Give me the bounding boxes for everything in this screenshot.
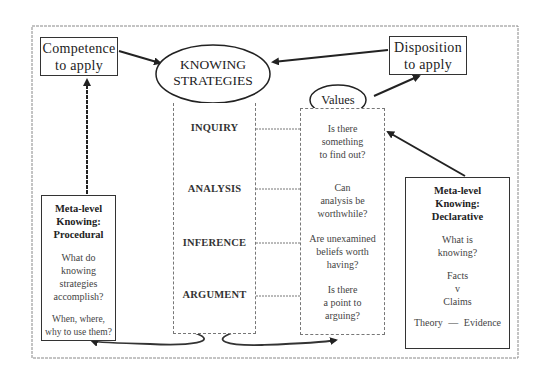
arrow-disposition-to-strategies xyxy=(273,50,388,62)
values-questions-box: Is there something to find out? Can anal… xyxy=(300,108,385,335)
procedural-title-line1: Meta-level xyxy=(42,202,115,215)
question-inquiry-line2: something xyxy=(301,135,384,148)
question-analysis-line3: worthwhile? xyxy=(301,207,384,220)
question-argument-line1: Is there xyxy=(301,283,384,296)
arrow-values-to-disposition xyxy=(374,76,419,96)
facts-label: Facts xyxy=(406,269,509,282)
procedural-question1: What do knowing strategies accomplish? xyxy=(42,251,115,303)
procedural-title-line2: Knowing: xyxy=(42,215,115,228)
question-inquiry-line3: to find out? xyxy=(301,148,384,161)
question-analysis: Can analysis be worthwhile? xyxy=(301,181,384,220)
question-inference-line2: beliefs worth xyxy=(301,245,384,258)
arrow-competence-to-strategies xyxy=(119,51,160,63)
theory-evidence-row: Theory — Evidence xyxy=(406,316,509,329)
disposition-line1: Disposition xyxy=(390,39,466,56)
claims-label: Claims xyxy=(406,295,509,308)
question-inquiry-line1: Is there xyxy=(301,122,384,135)
declarative-title-line2: Knowing: xyxy=(406,197,509,210)
declarative-title: Meta-level Knowing: Declarative xyxy=(406,184,509,223)
question-argument-line3: arguing? xyxy=(301,309,384,322)
competence-line2: to apply xyxy=(41,57,117,74)
declarative-question: What is knowing? xyxy=(406,233,509,259)
strategies-box: INQUIRY ANALYSIS INFERENCE ARGUMENT xyxy=(173,103,256,334)
strategy-inquiry: INQUIRY xyxy=(174,122,255,133)
procedural-q2-line1: When, where, xyxy=(42,313,115,326)
knowing-strategies-label: KNOWING STRATEGIES xyxy=(160,57,266,89)
knowing-line1: KNOWING xyxy=(160,57,266,73)
versus-label: v xyxy=(406,282,509,295)
procedural-q1-line3: strategies xyxy=(42,277,115,290)
question-analysis-line1: Can xyxy=(301,181,384,194)
strategy-inference: INFERENCE xyxy=(174,237,255,248)
procedural-title: Meta-level Knowing: Procedural xyxy=(42,202,115,241)
disposition-to-apply-box: Disposition to apply xyxy=(389,36,467,75)
declarative-q-line2: knowing? xyxy=(406,246,509,259)
values-label: Values xyxy=(312,92,364,108)
competence-to-apply-box: Competence to apply xyxy=(40,37,118,76)
question-argument: Is there a point to arguing? xyxy=(301,283,384,322)
question-inference-line1: Are unexamined xyxy=(301,232,384,245)
procedural-title-line3: Procedural xyxy=(42,228,115,241)
declarative-knowing-box: Meta-level Knowing: Declarative What is … xyxy=(405,177,510,349)
declarative-title-line3: Declarative xyxy=(406,210,509,223)
procedural-knowing-box: Meta-level Knowing: Procedural What do k… xyxy=(41,195,116,341)
question-analysis-line2: analysis be xyxy=(301,194,384,207)
question-argument-line2: a point to xyxy=(301,296,384,309)
strategy-analysis: ANALYSIS xyxy=(174,183,255,194)
competence-line1: Competence xyxy=(41,40,117,57)
knowing-line2: STRATEGIES xyxy=(160,73,266,89)
disposition-line2: to apply xyxy=(390,56,466,73)
evidence-label: Evidence xyxy=(464,317,501,328)
procedural-q1-line4: accomplish? xyxy=(42,290,115,303)
procedural-question2: When, where, why to use them? xyxy=(42,313,115,339)
strategy-argument: ARGUMENT xyxy=(174,289,255,300)
question-inference: Are unexamined beliefs worth having? xyxy=(301,232,384,271)
theory-evidence-dash: — xyxy=(448,317,458,328)
facts-vs-claims: Facts v Claims xyxy=(406,269,509,308)
procedural-q1-line2: knowing xyxy=(42,264,115,277)
arrow-declarative-to-values xyxy=(388,132,465,176)
procedural-q1-line1: What do xyxy=(42,251,115,264)
question-inference-line3: having? xyxy=(301,258,384,271)
procedural-q2-line2: why to use them? xyxy=(42,326,115,339)
declarative-title-line1: Meta-level xyxy=(406,184,509,197)
theory-label: Theory xyxy=(414,317,443,328)
declarative-q-line1: What is xyxy=(406,233,509,246)
question-inquiry: Is there something to find out? xyxy=(301,122,384,161)
